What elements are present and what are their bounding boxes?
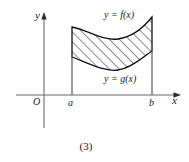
origin-label: O [33,96,40,107]
lower-curve-label: y = g(x) [103,73,137,85]
axes-group [16,12,181,128]
x-tick-label-a: a [68,97,73,108]
x-tick-label-b: b [149,97,154,108]
area-between-curves-figure: y x O a b y = f(x) y = g(x) (3) [0,0,189,162]
labels-group: y x O a b y = f(x) y = g(x) (3) [33,9,177,153]
figure-container: y x O a b y = f(x) y = g(x) (3) [0,0,189,162]
y-axis-label: y [34,9,40,21]
figure-caption: (3) [80,140,93,153]
upper-curve-label: y = f(x) [103,9,135,21]
y-axis-arrow-icon [41,12,46,20]
x-axis-label: x [171,94,177,106]
